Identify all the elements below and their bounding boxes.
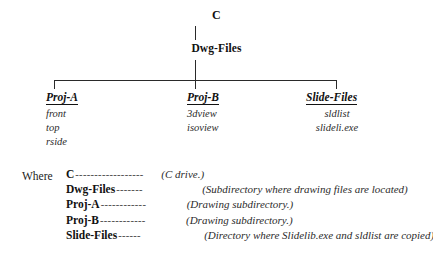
legend-term: Proj-B <box>66 214 99 226</box>
legend-rows: C ------------------ (C drive.) Dwg-File… <box>66 168 433 244</box>
legend-term: Dwg-Files <box>66 183 115 195</box>
legend-dash-leader: ------ <box>117 230 142 241</box>
legend-description: (Drawing subdirectory.) <box>186 198 294 210</box>
legend-description: (Directory where Slidelib.exe and sldlis… <box>203 229 433 241</box>
legend-dash-leader: ------------------ <box>74 169 144 180</box>
diagram-page: C Dwg-Files Proj-A front top rside Proj-… <box>0 0 433 265</box>
legend: Where C ------------------ (C drive.) Dw… <box>22 168 433 244</box>
connector-drop-proj-b <box>195 80 196 89</box>
connector-drop-slide-files <box>336 80 337 89</box>
legend-row: Slide-Files ------ (Directory where Slid… <box>66 229 433 244</box>
connector-root-to-level2 <box>195 26 196 40</box>
tree-node-proj-a: Proj-A <box>46 91 78 105</box>
legend-term: Proj-A <box>66 198 100 210</box>
tree-leaf-proj-a-3: rside <box>46 135 67 148</box>
tree-node-proj-b: Proj-B <box>187 91 219 105</box>
legend-row: Proj-A ------------ (Drawing subdirector… <box>66 198 433 213</box>
tree-leaf-slide-files-2: slideli.exe <box>300 121 374 134</box>
directory-tree: C Dwg-Files Proj-A front top rside Proj-… <box>0 0 433 160</box>
legend-term: Slide-Files <box>66 229 117 241</box>
legend-where-label: Where <box>22 170 53 182</box>
tree-node-dwg-files: Dwg-Files <box>0 42 433 54</box>
legend-dash-leader: ------- <box>115 184 144 195</box>
tree-leaf-proj-a-2: top <box>46 121 59 134</box>
legend-description: (Subdirectory where drawing files are lo… <box>201 183 408 195</box>
legend-term: C <box>66 168 74 180</box>
legend-row: Proj-B ------------ (Drawing subdirector… <box>66 214 433 229</box>
connector-drop-proj-a <box>54 80 55 89</box>
connector-level2-to-bus <box>195 60 196 80</box>
legend-dash-leader: ------------ <box>100 199 148 210</box>
tree-node-slide-files: Slide-Files <box>306 91 357 105</box>
tree-leaf-proj-a-1: front <box>46 107 66 120</box>
legend-description: (Drawing subdirectory.) <box>185 214 293 226</box>
tree-leaf-proj-b-1: 3dview <box>187 107 217 120</box>
legend-row: Dwg-Files ------- (Subdirectory where dr… <box>66 183 433 198</box>
legend-row: C ------------------ (C drive.) <box>66 168 433 183</box>
tree-leaf-slide-files-1: sldlist <box>306 107 368 120</box>
tree-node-root: C <box>0 8 433 23</box>
tree-leaf-proj-b-2: isoview <box>187 121 219 134</box>
legend-dash-leader: ------------ <box>99 215 147 226</box>
legend-description: (C drive.) <box>160 168 204 180</box>
